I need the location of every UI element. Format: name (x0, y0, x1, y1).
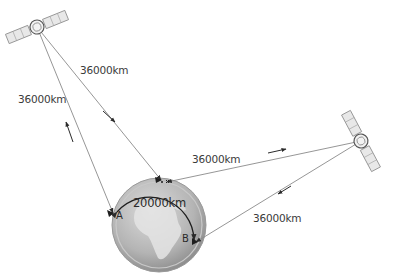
line-a-to-sat1 (37, 27, 113, 213)
label-point-b: B (182, 233, 189, 244)
label-point-a: A (116, 210, 123, 221)
arrow-down-icon (103, 111, 115, 122)
arrow-down-left-icon (278, 186, 291, 194)
satellite-2-icon (340, 109, 382, 172)
earth-globe (112, 178, 206, 272)
label-sat2-bottom-distance: 36000km (253, 212, 301, 224)
label-sat1-right-distance: 36000km (80, 64, 128, 76)
label-sat2-top-distance: 36000km (192, 153, 240, 165)
satellite-relay-diagram: 36000km 36000km 36000km 36000km 20000km … (0, 0, 396, 277)
satellite-1-icon (5, 9, 70, 46)
label-sat1-left-distance: 36000km (18, 93, 66, 105)
arrow-right-icon (268, 149, 286, 153)
arrow-up-icon (66, 122, 73, 142)
label-surface-distance: 20000km (133, 196, 186, 210)
